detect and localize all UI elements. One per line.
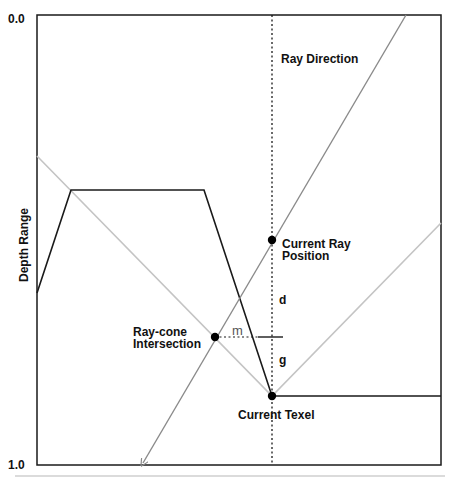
ray-direction-label: Ray Direction [281,52,358,66]
current-ray-position-point [268,236,276,244]
axis-bottom-label: 1.0 [8,458,25,472]
m-label: m [232,323,243,338]
current-texel-label: Current Texel [238,408,314,422]
g-label: g [279,353,286,367]
plot-frame [37,15,441,465]
ray-cone-label-line2: Intersection [133,337,201,351]
y-axis-title: Depth Range [17,208,31,282]
depth-diagram: 0.0 1.0 Depth Range Ray Direction Curren… [0,0,453,481]
current-texel-point [268,392,276,400]
d-label: d [279,293,286,307]
cone-lines [37,156,441,396]
current-ray-position-label-line2: Position [282,249,329,263]
ray-cone-intersection-point [211,333,219,341]
heightfield-profile [37,190,441,396]
axis-top-label: 0.0 [8,12,25,26]
